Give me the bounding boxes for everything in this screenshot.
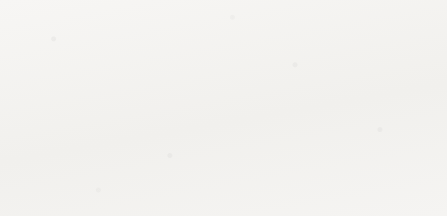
arrow-natural-to-unmindful: [178, 84, 220, 111]
arrow-unmindful-to-rejection: [300, 34, 340, 62]
arrow-unmindful-to-compliance: [300, 69, 339, 96]
arrow-change-to-natural: [76, 106, 105, 125]
flowchart-canvas: [0, 0, 447, 216]
arrow-awareness-to-collaboration: [300, 178, 339, 204]
arrow-awareness-to-cooperation: [300, 143, 340, 171]
arrow-natural-to-awareness: [178, 126, 217, 152]
